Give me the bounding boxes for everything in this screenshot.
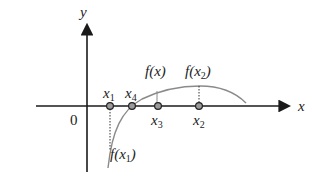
y-axis-label: y <box>80 5 87 20</box>
point-x3 <box>155 103 162 110</box>
diagram-graphics <box>0 0 312 178</box>
label-x3: x3 <box>151 113 163 130</box>
label-x2: x2 <box>193 113 205 130</box>
newton-method-diagram: y x 0 x1 x4 x3 x2 f(x) f(x2) f(x1) <box>0 0 312 178</box>
point-x2 <box>196 103 203 110</box>
label-x1: x1 <box>103 86 115 103</box>
label-f-x2: f(x2) <box>185 64 211 81</box>
point-x4 <box>129 103 136 110</box>
label-f-x1: f(x1) <box>110 147 136 164</box>
x-axis-label: x <box>298 99 305 114</box>
curve-label-fx: f(x) <box>145 64 166 79</box>
point-x1 <box>107 103 114 110</box>
label-x4: x4 <box>125 86 137 103</box>
origin-label: 0 <box>70 113 78 128</box>
